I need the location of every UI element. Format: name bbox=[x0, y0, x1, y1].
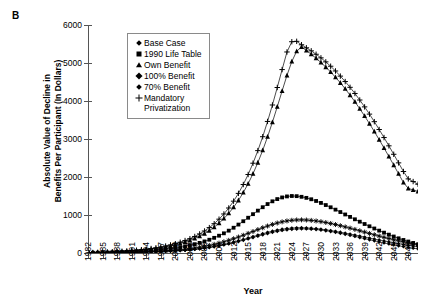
y-tick bbox=[84, 25, 92, 26]
x-tick-label: 2009 bbox=[215, 242, 224, 261]
chart-legend: Base Case1990 Life TableOwn Benefit100% … bbox=[127, 33, 210, 119]
legend-item-label: Own Benefit bbox=[144, 60, 190, 71]
y-tick-label: 5000 bbox=[63, 59, 82, 68]
x-tick-label: 1991 bbox=[127, 242, 136, 261]
x-tick-label: 2033 bbox=[331, 242, 340, 261]
legend-item: MandatoryPrivatization bbox=[133, 93, 202, 114]
legend-item-label: 1990 Life Table bbox=[144, 49, 202, 60]
x-tick-label: 2024 bbox=[287, 242, 296, 261]
x-tick-label: 2045 bbox=[389, 242, 398, 261]
legend-item-label-line2: Privatization bbox=[144, 103, 190, 114]
x-tick-label: 2042 bbox=[375, 242, 384, 261]
triangle-marker-icon bbox=[133, 60, 144, 71]
marker-glyph bbox=[136, 40, 142, 46]
x-tick-label: 2012 bbox=[229, 242, 238, 261]
legend-item: Base Case bbox=[133, 38, 202, 49]
y-tick bbox=[84, 139, 92, 140]
y-tick-label: 6000 bbox=[63, 21, 82, 30]
x-tick-label: 2021 bbox=[273, 242, 282, 261]
y-tick-label: 0 bbox=[77, 249, 82, 258]
marker-glyph bbox=[136, 51, 141, 56]
legend-item: 100% Benefit bbox=[133, 71, 202, 82]
y-axis-title-line1: Absolute Value of Decline in bbox=[42, 16, 53, 246]
legend-item: 1990 Life Table bbox=[133, 49, 202, 60]
y-tick-label: 4000 bbox=[63, 97, 82, 106]
y-tick bbox=[84, 63, 92, 64]
x-tick-label: 2015 bbox=[244, 242, 253, 261]
legend-item: Own Benefit bbox=[133, 60, 202, 71]
x-tick-label: 2036 bbox=[346, 242, 355, 261]
plus-marker-icon bbox=[133, 93, 144, 104]
x-tick-label: 1997 bbox=[156, 242, 165, 261]
legend-item-label: Base Case bbox=[144, 38, 186, 49]
x-tick-label: 2000 bbox=[171, 242, 180, 261]
y-tick-label: 3000 bbox=[63, 135, 82, 144]
square-marker-icon bbox=[133, 49, 144, 60]
legend-item: 70% Benefit bbox=[133, 82, 202, 93]
diamond-marker-icon bbox=[133, 38, 144, 49]
x-tick-label: 2018 bbox=[258, 242, 267, 261]
y-tick-label: 1000 bbox=[63, 211, 82, 220]
x-tick-label: 2030 bbox=[316, 242, 325, 261]
x-axis-title: Year bbox=[88, 286, 418, 296]
x-tick-label: 2039 bbox=[360, 242, 369, 261]
diamond-marker-icon bbox=[133, 82, 144, 93]
chart-panel: B Absolute Value of Decline in Benefits … bbox=[0, 0, 426, 308]
legend-item-label: 70% Benefit bbox=[144, 82, 190, 93]
x-tick-label: 2003 bbox=[185, 242, 194, 261]
y-tick bbox=[84, 177, 92, 178]
marker-glyph bbox=[136, 84, 142, 90]
y-tick bbox=[84, 101, 92, 102]
y-tick bbox=[84, 215, 92, 216]
panel-label: B bbox=[12, 10, 19, 21]
legend-item-label: MandatoryPrivatization bbox=[144, 93, 190, 114]
y-axis-title: Absolute Value of Decline in Benefits Pe… bbox=[42, 16, 64, 246]
x-tick-label: 1985 bbox=[98, 242, 107, 261]
x-tick-label: 2048 bbox=[404, 242, 413, 261]
marker-glyph bbox=[135, 94, 142, 101]
x-tick-label: 2006 bbox=[200, 242, 209, 261]
marker-glyph bbox=[135, 72, 142, 79]
marker-glyph bbox=[136, 62, 142, 67]
y-tick-label: 2000 bbox=[63, 173, 82, 182]
legend-item-label: 100% Benefit bbox=[144, 71, 195, 82]
x-tick-label: 1988 bbox=[113, 242, 122, 261]
x-tick-label: 1982 bbox=[84, 242, 93, 261]
x-tick-label: 2027 bbox=[302, 242, 311, 261]
x-tick-label: 1994 bbox=[142, 242, 151, 261]
star-marker-icon bbox=[133, 71, 144, 82]
